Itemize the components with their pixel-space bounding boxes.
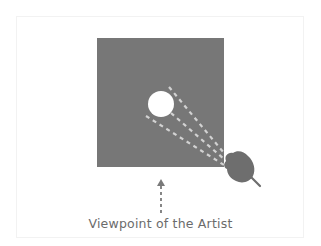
diagram-caption: Viewpoint of the Artist <box>0 216 321 231</box>
object-circle <box>148 91 174 117</box>
perspective-diagram <box>0 0 321 246</box>
viewer-head-icon <box>224 151 260 186</box>
viewpoint-arrow-icon <box>157 179 165 213</box>
